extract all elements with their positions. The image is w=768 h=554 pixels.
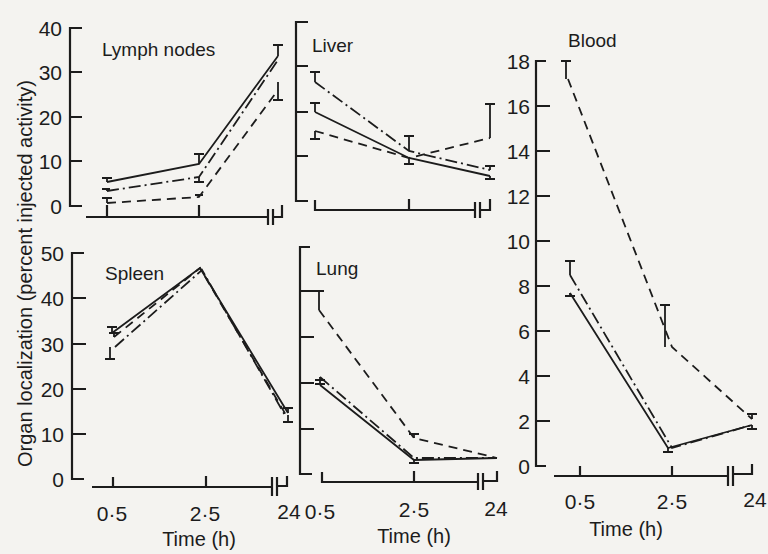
panel-blood: 18 16 14 12 10 8 6 4 2 0 Blood 0·5 2·5 2… <box>507 30 767 540</box>
y-axis-title: Organ localization (percent injected act… <box>14 80 36 467</box>
lymph-error-bars <box>102 45 283 203</box>
lung-series-solid <box>320 385 497 460</box>
lymph-y-tick-30: 30 <box>39 61 62 84</box>
lymph-y-tick-20: 20 <box>39 106 62 129</box>
lung-error-bars <box>314 291 419 463</box>
liver-x-axis <box>315 199 490 218</box>
lung-title: Lung <box>316 258 358 279</box>
lymph-series-dashed <box>107 90 278 203</box>
spleen-y-tick-20: 20 <box>41 378 64 401</box>
spleen-x-tick-2-5: 2·5 <box>190 502 220 525</box>
blood-y-tick-4: 4 <box>518 365 530 388</box>
spleen-series-solid <box>112 268 288 413</box>
blood-y-tick-18: 18 <box>507 50 530 73</box>
liver-title: Liver <box>312 35 354 56</box>
blood-x-tick-24: 24 <box>743 488 767 511</box>
spleen-x-axis-title: Time (h) <box>162 528 236 550</box>
spleen-series-dashdot <box>115 270 286 417</box>
spleen-y-tick-0: 0 <box>52 468 64 491</box>
spleen-y-tick-10: 10 <box>41 423 64 446</box>
lung-y-axis <box>300 247 314 474</box>
blood-x-tick-2-5: 2·5 <box>657 490 687 513</box>
panel-lymph-nodes: 40 30 20 10 0 Lymph nodes <box>39 17 283 225</box>
blood-error-bars <box>561 61 757 452</box>
blood-series-dashed <box>568 79 752 419</box>
liver-error-bars <box>310 72 495 179</box>
blood-x-tick-0-5: 0·5 <box>565 490 595 513</box>
spleen-title: Spleen <box>105 263 164 284</box>
lung-x-tick-24: 24 <box>484 497 508 520</box>
figure-canvas: Organ localization (percent injected act… <box>0 0 768 554</box>
blood-y-tick-2: 2 <box>518 410 530 433</box>
blood-y-tick-0: 0 <box>518 455 530 478</box>
spleen-y-tick-40: 40 <box>41 287 64 310</box>
blood-y-tick-14: 14 <box>507 140 531 163</box>
panel-spleen: 50 40 30 20 10 0 0·5 2·5 24 Time (h) Spl… <box>41 242 301 550</box>
spleen-y-axis <box>72 253 86 479</box>
blood-y-tick-8: 8 <box>518 275 530 298</box>
lymph-y-tick-10: 10 <box>39 150 62 173</box>
blood-title: Blood <box>568 30 617 51</box>
lymph-x-axis <box>86 205 282 225</box>
spleen-y-tick-30: 30 <box>41 333 64 356</box>
lung-x-axis-title: Time (h) <box>377 525 451 547</box>
spleen-x-axis <box>92 476 287 496</box>
lymph-y-axis <box>70 28 82 206</box>
lymph-y-tick-0: 0 <box>50 195 62 218</box>
blood-x-axis <box>554 464 752 486</box>
lymph-title: Lymph nodes <box>102 39 215 60</box>
blood-y-tick-16: 16 <box>507 95 530 118</box>
spleen-x-tick-0-5: 0·5 <box>97 502 127 525</box>
spleen-series-dashed <box>114 268 286 415</box>
lung-x-tick-0-5: 0·5 <box>305 500 335 523</box>
lung-x-tick-2-5: 2·5 <box>399 498 429 521</box>
panel-liver: Liver <box>296 22 495 218</box>
blood-series-dashdot <box>570 275 752 448</box>
blood-y-tick-12: 12 <box>507 185 530 208</box>
blood-series-solid <box>570 293 752 448</box>
panel-lung: 0·5 2·5 24 Time (h) Lung <box>300 247 508 547</box>
lung-series-dashed <box>319 310 497 458</box>
spleen-y-tick-50: 50 <box>41 242 64 265</box>
lung-series-dashdot <box>320 377 497 458</box>
blood-y-tick-6: 6 <box>518 320 530 343</box>
liver-y-axis <box>296 22 308 201</box>
lymph-y-tick-40: 40 <box>39 17 62 40</box>
lymph-series-solid <box>107 56 278 182</box>
spleen-x-tick-24: 24 <box>277 500 301 523</box>
blood-x-axis-title: Time (h) <box>589 518 663 540</box>
blood-y-axis <box>536 61 550 466</box>
lung-x-axis <box>322 471 497 490</box>
blood-y-tick-10: 10 <box>507 230 530 253</box>
